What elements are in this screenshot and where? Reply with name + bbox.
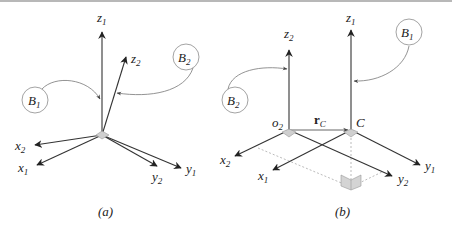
label-z2: z2 bbox=[283, 26, 294, 43]
label-x2: x2 bbox=[219, 152, 231, 169]
label-y1: y1 bbox=[423, 158, 435, 175]
leader-b1 bbox=[354, 46, 409, 81]
label-x1: x1 bbox=[17, 160, 28, 177]
label-x2: x2 bbox=[14, 138, 26, 155]
axis-y2 bbox=[102, 135, 157, 166]
label-z1: z1 bbox=[345, 10, 356, 27]
leader-b1 bbox=[42, 80, 100, 99]
label-y2: y2 bbox=[150, 169, 163, 186]
coordinate-frames-diagram: B1 B2 z1 z2 x2 x1 y2 y1 (a) bbox=[0, 0, 452, 229]
label-b1: B1 bbox=[401, 25, 413, 42]
axis-z2 bbox=[102, 57, 126, 135]
panel-b: B1 B2 z2 z1 o2 rC C x2 x1 y1 y2 (b) bbox=[219, 10, 435, 219]
axis-y2 bbox=[289, 130, 392, 176]
axis-y1 bbox=[102, 135, 181, 168]
axis-x2 bbox=[235, 130, 289, 156]
panel-a: B1 B2 z1 z2 x2 x1 y2 y1 (a) bbox=[14, 10, 199, 219]
leader-b2 bbox=[228, 68, 287, 89]
label-b2: B2 bbox=[178, 50, 191, 67]
caption-b: (b) bbox=[335, 204, 350, 219]
label-y1: y1 bbox=[184, 161, 196, 178]
axis-x1 bbox=[273, 130, 351, 170]
label-o2: o2 bbox=[272, 115, 284, 132]
caption-a: (a) bbox=[98, 204, 113, 219]
label-rc: rC bbox=[314, 112, 327, 129]
leader-b2 bbox=[117, 68, 193, 95]
label-b1: B1 bbox=[28, 93, 40, 110]
label-c: C bbox=[356, 115, 365, 130]
label-z2: z2 bbox=[130, 51, 141, 68]
label-x1: x1 bbox=[257, 168, 268, 185]
label-b2: B2 bbox=[227, 93, 240, 110]
axis-y1 bbox=[351, 130, 420, 165]
label-y2: y2 bbox=[396, 171, 409, 188]
label-z1: z1 bbox=[96, 10, 107, 27]
